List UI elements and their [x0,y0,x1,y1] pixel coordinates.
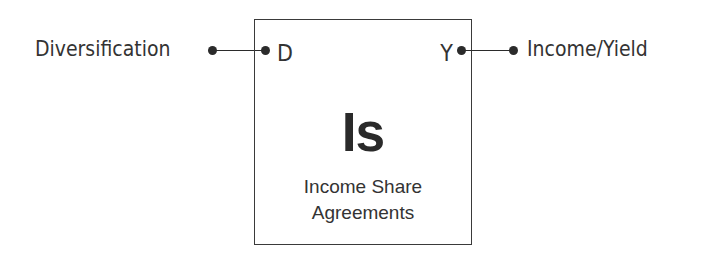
element-box: D Y Is Income Share Agreements [254,19,472,245]
element-name-line2: Agreements [255,201,471,225]
element-symbol: Is [260,104,465,160]
output-connector-dot [509,46,518,55]
input-label-diversification: Diversification [35,39,171,60]
output-connector-line [461,50,513,51]
port-y-label: Y [440,42,453,65]
element-name-line1: Income Share [255,175,471,199]
port-d-label: D [277,42,293,65]
output-label-income-yield: Income/Yield [527,39,648,60]
